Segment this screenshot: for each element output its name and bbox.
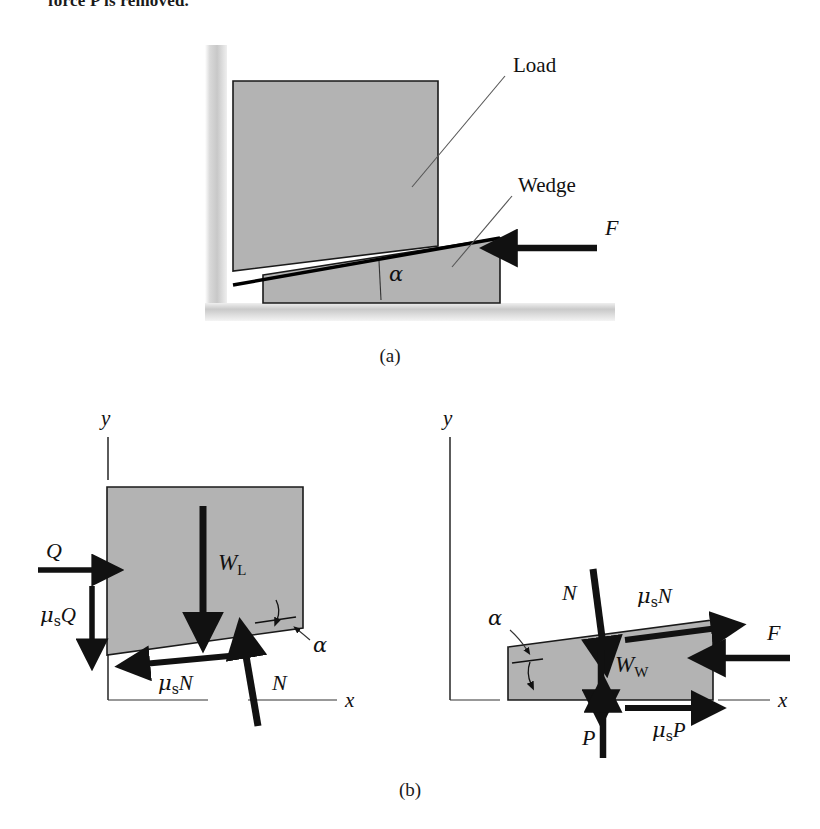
right-y-axis-label: y: [441, 406, 453, 430]
load-mu-s-n-label: μsN: [158, 671, 194, 697]
figure-b-left-group: y x Q μsQ WL α μsN N: [38, 406, 355, 726]
wedge-normal-arrow: [593, 569, 603, 645]
load-label: Load: [513, 53, 557, 77]
right-x-axis-label: x: [777, 688, 788, 712]
caption-a: (a): [379, 345, 400, 367]
ground-shading: [205, 303, 615, 321]
load-alpha-leader: [298, 630, 310, 640]
wedge-p-label: P: [581, 725, 595, 750]
figure-a-group: α Load Wedge F (a): [205, 45, 619, 367]
load-block-a: [233, 81, 438, 271]
wedge-mu-s-p-label: μsP: [652, 718, 686, 744]
load-mu-s-n-arrow: [143, 655, 240, 664]
caption-b: (b): [399, 779, 421, 801]
load-normal-label: N: [271, 670, 288, 695]
load-normal-arrow: [245, 650, 258, 726]
alpha-label-a: α: [389, 262, 403, 286]
wedge-force-f-label: F: [766, 620, 781, 645]
load-mu-s-q-label: μsQ: [40, 603, 76, 629]
wedge-normal-label: N: [561, 580, 578, 605]
load-q-label: Q: [46, 538, 62, 563]
wedge-friction-figure: α Load Wedge F (a) y x Q μsQ WL α μsN N: [0, 0, 820, 829]
load-alpha-label: α: [313, 633, 327, 657]
left-y-axis-label: y: [99, 406, 111, 430]
force-f-label-a: F: [604, 215, 619, 240]
left-x-axis-label: x: [344, 688, 355, 712]
wedge-alpha-label: α: [488, 606, 502, 630]
wedge-mu-s-n-label: μsN: [637, 584, 673, 610]
figure-b-right-group: y x N μsN α WW F P μsP: [441, 406, 790, 758]
wall-shading: [205, 45, 227, 310]
wedge-label: Wedge: [518, 173, 576, 197]
